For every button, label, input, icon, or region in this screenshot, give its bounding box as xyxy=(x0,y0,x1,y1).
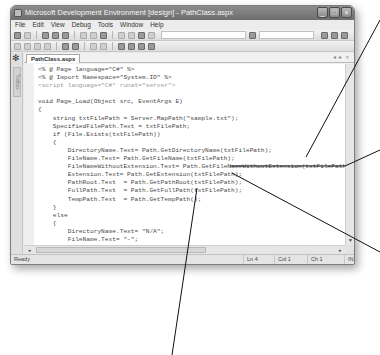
properties-icon[interactable] xyxy=(331,32,338,39)
scroll-down-arrow-icon[interactable]: ▼ xyxy=(347,237,354,244)
code-line: <script language="C#" runat="server"> xyxy=(38,82,345,90)
horizontal-scrollbar[interactable]: ◂ ▸ xyxy=(24,245,345,254)
save-icon[interactable] xyxy=(52,32,59,39)
start-icon[interactable] xyxy=(138,32,145,39)
menu-view[interactable]: View xyxy=(51,20,65,30)
code-line xyxy=(38,90,345,98)
open-icon[interactable] xyxy=(42,32,49,39)
complete-word-icon[interactable] xyxy=(138,43,145,50)
status-text: Ready xyxy=(14,255,30,264)
close-button[interactable]: × xyxy=(341,7,352,18)
code-line: DirectoryName.Text= "N/A"; xyxy=(38,228,345,236)
new-project-icon[interactable] xyxy=(14,32,21,39)
code-line: { xyxy=(38,220,345,228)
copy-icon[interactable] xyxy=(90,32,97,39)
menu-edit[interactable]: Edit xyxy=(32,20,43,30)
list-members-icon[interactable] xyxy=(100,43,107,50)
display-word-icon[interactable] xyxy=(148,43,155,50)
status-bar: Ready Ln 4 Col 1 Ch 1 INS xyxy=(11,254,354,264)
menu-debug[interactable]: Debug xyxy=(72,20,91,30)
toolbar-separator xyxy=(112,42,113,50)
bookmark-icon[interactable] xyxy=(62,43,69,50)
code-line: <% @ Import Namespace="System.IO" %> xyxy=(38,74,345,82)
find-icon[interactable] xyxy=(249,32,256,39)
code-line: <% @ Page language="C#" %> xyxy=(38,66,345,74)
code-editor[interactable]: <% @ Page language="C#" %><% @ Import Na… xyxy=(24,64,345,245)
editor-frame: PathClass.aspx ◂ ▸ × <% @ Page language=… xyxy=(24,53,354,254)
minimize-button[interactable]: _ xyxy=(317,7,328,18)
code-text: <% @ Page language="C#" %><% @ Import Na… xyxy=(34,64,345,245)
undo-icon[interactable] xyxy=(118,32,125,39)
menu-file[interactable]: File xyxy=(15,20,25,30)
maximize-button[interactable]: □ xyxy=(329,7,340,18)
menu-help[interactable]: Help xyxy=(150,20,163,30)
uncomment-icon[interactable] xyxy=(44,43,51,50)
code-line: TempPath.Text = Path.GetTempPath(); xyxy=(38,196,345,204)
toolbar-separator xyxy=(36,31,37,39)
code-line: DirectoryName.Text= Path.GetDirectoryNam… xyxy=(38,147,345,155)
paste-icon[interactable] xyxy=(100,32,107,39)
horizontal-scroll-thumb[interactable] xyxy=(36,247,206,253)
code-line: PathRoot.Text = Path.GetPathRoot(txtFile… xyxy=(38,179,345,187)
status-column: Col 1 xyxy=(274,255,291,264)
status-char: Ch 1 xyxy=(307,255,323,264)
status-mode: INS xyxy=(344,255,355,264)
menu-bar: File Edit View Debug Tools Window Help xyxy=(11,20,354,30)
parameter-info-icon[interactable] xyxy=(118,43,125,50)
cut-icon[interactable] xyxy=(80,32,87,39)
code-line: { xyxy=(38,106,345,114)
redo-icon[interactable] xyxy=(128,32,135,39)
document-tabstrip: PathClass.aspx ◂ ▸ × xyxy=(24,53,354,63)
format-icon[interactable] xyxy=(90,43,97,50)
menu-tools[interactable]: Tools xyxy=(98,20,113,30)
standard-toolbar xyxy=(11,30,354,41)
app-icon xyxy=(14,9,22,17)
tab-pathclass-aspx[interactable]: PathClass.aspx xyxy=(26,54,80,63)
code-line: FileName.Text= "-"; xyxy=(38,236,345,244)
step-icon[interactable] xyxy=(148,32,155,39)
code-line: FullPath.Text = Path.GetFullPath(txtFile… xyxy=(38,187,345,195)
ide-window: Microsoft Development Environment [desig… xyxy=(10,5,355,265)
outdent-icon[interactable] xyxy=(24,43,31,50)
code-line: FileName.Text= Path.GetFileName(txtFileP… xyxy=(38,155,345,163)
toolbar-separator xyxy=(74,31,75,39)
quick-info-icon[interactable] xyxy=(128,43,135,50)
vertical-scrollbar[interactable]: ▼ xyxy=(345,64,354,245)
text-editor-toolbar xyxy=(11,41,354,52)
tab-navigation-controls[interactable]: ◂ ▸ × xyxy=(333,54,350,60)
save-all-icon[interactable] xyxy=(62,32,69,39)
comment-icon[interactable] xyxy=(34,43,41,50)
add-item-icon[interactable] xyxy=(24,32,31,39)
toolbox-strip: ✻ Toolbox xyxy=(11,53,23,254)
menu-window[interactable]: Window xyxy=(120,20,143,30)
code-line: { xyxy=(38,139,345,147)
code-line: void Page_Load(Object src, EventArgs E) xyxy=(38,98,345,106)
toolbar-separator xyxy=(112,31,113,39)
status-line: Ln 4 xyxy=(243,255,258,264)
code-line: Extension.Text= Path.GetExtension(txtFil… xyxy=(38,171,345,179)
window-controls: _ □ × xyxy=(317,7,352,18)
document-area: ✻ Toolbox PathClass.aspx ◂ ▸ × <% @ Page… xyxy=(11,53,354,254)
window-title: Microsoft Development Environment [desig… xyxy=(25,8,233,17)
title-bar[interactable]: Microsoft Development Environment [desig… xyxy=(11,6,354,20)
scroll-corner xyxy=(345,245,354,254)
scroll-right-arrow-icon[interactable]: ▸ xyxy=(336,246,344,254)
next-bookmark-icon[interactable] xyxy=(72,43,79,50)
indent-icon[interactable] xyxy=(14,43,21,50)
code-line: string txtFilePath = Server.MapPath("sam… xyxy=(38,115,345,123)
toolbox-icon[interactable] xyxy=(341,32,348,39)
code-line: if (File.Exists(txtFilePath)) xyxy=(38,131,345,139)
find-combo[interactable] xyxy=(259,31,314,39)
server-explorer-icon[interactable]: ✻ xyxy=(12,53,20,63)
code-line: } xyxy=(38,204,345,212)
toolbar-separator xyxy=(84,42,85,50)
toolbar-separator xyxy=(56,42,57,50)
code-line: else xyxy=(38,212,345,220)
code-line: FileNameWithoutExtension.Text= Path.GetF… xyxy=(38,163,345,171)
code-line: SpecifiedFilePath.Text = txtFilePath; xyxy=(38,123,345,131)
configuration-combo[interactable] xyxy=(161,31,246,39)
solution-explorer-icon[interactable] xyxy=(321,32,328,39)
scroll-left-arrow-icon[interactable]: ◂ xyxy=(25,246,33,254)
toolbox-tab[interactable]: Toolbox xyxy=(13,67,21,97)
